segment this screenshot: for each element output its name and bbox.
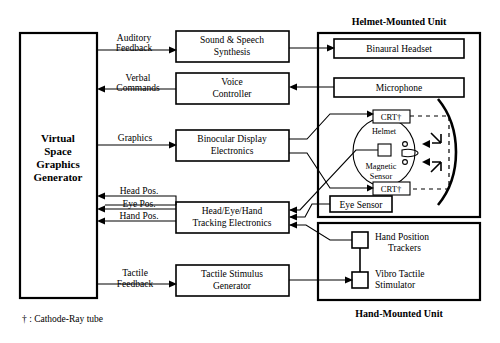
magnetic-sensor-line1: Magnetic	[366, 162, 397, 171]
eye-upper-icon	[403, 142, 408, 147]
binocular-block-line1: Binocular Display	[197, 134, 267, 144]
eye-pos-label: Eye Pos.	[122, 199, 155, 209]
crt-bottom-label: CRT†	[381, 184, 402, 194]
crt-top-label: CRT†	[381, 112, 402, 122]
hand-trackers-to-tracking-arrowhead	[289, 222, 297, 229]
hand-trackers-line2: Trackers	[388, 243, 421, 253]
voice-block-line2: Controller	[212, 89, 252, 99]
tactile-label-line1: Tactile	[122, 268, 148, 278]
helmet-label: Helmet	[372, 127, 397, 136]
main-block-line2: Space	[44, 145, 72, 157]
vibro-tactile-stimulator-square	[352, 272, 368, 288]
helmet-unit-title: Helmet-Mounted Unit	[352, 16, 447, 27]
verbal-label-line2: Commands	[116, 83, 160, 93]
hand-pos-label: Hand Pos.	[119, 211, 158, 221]
main-block-line1: Virtual	[41, 132, 75, 144]
tactile-block-line2: Generator	[213, 281, 252, 291]
hand-position-tracker-square	[352, 232, 368, 248]
hand-trackers-line1: Hand Position	[375, 232, 429, 242]
auditory-label-line1: Auditory	[117, 33, 152, 43]
magnetic-sensor-line2: Sensor	[370, 172, 393, 181]
head-pos-arrowhead	[97, 193, 105, 200]
footnote-cathode-ray-tube: † : Cathode-Ray tube	[22, 314, 103, 324]
sound-block-line1: Sound & Speech	[200, 35, 264, 45]
hand-unit-title: Hand-Mounted Unit	[355, 308, 443, 319]
stimulator-line2: Stimulator	[375, 280, 416, 290]
eye-pos-arrowhead	[97, 206, 105, 213]
magnetic-sensor-to-tracking-arrowhead	[289, 207, 297, 214]
tactile-label-line2: Feedback	[117, 279, 154, 289]
microphone-to-voice-arrowhead	[289, 84, 297, 91]
eye-lower-icon	[403, 160, 408, 165]
magnetic-sensor-square	[378, 144, 391, 156]
verbal-commands-arrowhead	[97, 86, 105, 93]
tracking-block-line1: Head/Eye/Hand	[202, 206, 263, 216]
auditory-label-line2: Feedback	[116, 43, 153, 53]
stimulator-line1: Vibro Tactile	[375, 269, 425, 279]
system-block-diagram: Helmet-Mounted Unit Hand-Mounted Unit Vi…	[0, 0, 500, 343]
main-block-line4: Generator	[34, 171, 83, 183]
main-block-line3: Graphics	[36, 158, 80, 170]
tracking-block-line2: Tracking Electronics	[192, 218, 271, 228]
sound-block-line2: Synthesis	[214, 47, 251, 57]
microphone-label: Microphone	[376, 83, 422, 93]
eye-sensor-to-tracking-arrowhead	[289, 214, 297, 221]
eye-sensor-label: Eye Sensor	[339, 200, 383, 210]
tactile-block-line1: Tactile Stimulus	[201, 269, 263, 279]
head-pos-label: Head Pos.	[120, 186, 159, 196]
verbal-label-line1: Verbal	[126, 73, 151, 83]
binaural-headset-label: Binaural Headset	[366, 44, 432, 54]
binocular-block-line2: Electronics	[211, 146, 254, 156]
voice-block-line1: Voice	[221, 77, 242, 87]
hand-pos-arrowhead	[97, 218, 105, 225]
graphics-label: Graphics	[118, 133, 153, 143]
